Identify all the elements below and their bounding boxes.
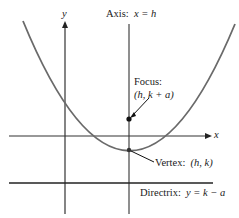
vertex-coords: (h, k) [191, 157, 213, 168]
directrix-prefix: Directrix: [140, 187, 181, 198]
vertex-pointer [131, 151, 154, 162]
directrix-label: Directrix: y = k − a [140, 188, 225, 199]
x-axis-label: x [214, 130, 219, 141]
axis-equation: x = h [134, 8, 156, 19]
directrix-equation: y = k − a [186, 187, 225, 198]
focus-coords: (h, k + a) [134, 88, 174, 101]
focus-title: Focus: [134, 75, 174, 88]
axis-of-symmetry-label: Axis: x = h [106, 9, 156, 20]
parabola-diagram [0, 0, 239, 218]
vertex-prefix: Vertex: [155, 157, 185, 168]
vertex-point [127, 148, 131, 152]
y-axis-label: y [62, 9, 67, 20]
axis-prefix: Axis: [106, 8, 129, 19]
y-axis-arrow-icon [62, 21, 68, 28]
x-axis-arrow-icon [205, 133, 212, 139]
vertex-label: Vertex: (h, k) [155, 158, 213, 169]
focus-label: Focus: (h, k + a) [134, 75, 174, 101]
